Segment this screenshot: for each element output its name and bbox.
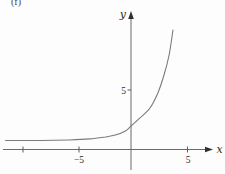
figure-panel: −5 5 5 y x (f): [0, 0, 225, 174]
exponential-curve: [6, 30, 173, 141]
exponential-graph: −5 5 5 y x (f): [0, 0, 225, 174]
x-axis-arrow-icon: [205, 147, 213, 153]
y-axis-arrow-icon: [128, 11, 134, 19]
x-tick-label-neg5: −5: [74, 155, 84, 165]
x-tick-label-5: 5: [186, 155, 191, 165]
y-tick-label-5: 5: [121, 86, 126, 96]
panel-label: (f): [11, 0, 21, 8]
x-axis-label: x: [217, 143, 224, 156]
y-axis-label: y: [119, 8, 127, 21]
